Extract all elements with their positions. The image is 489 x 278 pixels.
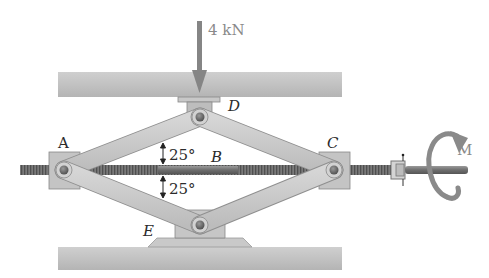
base-plate: [148, 238, 252, 247]
angle-label-upper: 25°: [169, 146, 196, 164]
label-d: D: [227, 97, 240, 115]
pin-e: [192, 217, 208, 233]
angle-marker-lower: [161, 176, 166, 198]
angle-marker-upper: [161, 143, 166, 164]
pin-a: [56, 162, 72, 178]
label-c: C: [327, 134, 339, 152]
thrust-collar: [391, 154, 405, 186]
pin-c: [326, 162, 342, 178]
bottom-beam: [58, 247, 342, 270]
link-ec: [200, 170, 334, 225]
angle-label-lower: 25°: [169, 180, 196, 198]
load-label: 4 kN: [208, 21, 245, 39]
label-a: A: [57, 134, 69, 152]
label-e: E: [142, 222, 154, 240]
scissor-jack-diagram: 4 kN 25° 25° A B C D E M: [0, 0, 489, 278]
pin-d: [192, 109, 208, 125]
label-b: B: [210, 148, 222, 166]
moment-label: M: [457, 141, 472, 159]
